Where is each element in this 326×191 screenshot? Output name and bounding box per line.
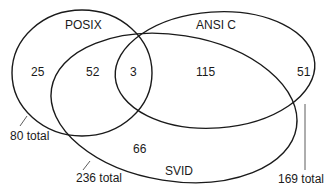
- ansi-c-set-label: ANSI C: [196, 18, 236, 32]
- svid-total-label: 236 total: [76, 171, 122, 185]
- region-ansi-svid-count: 115: [196, 65, 215, 79]
- region-all-three-count: 3: [130, 65, 137, 79]
- region-ansi-only-count: 51: [297, 65, 311, 79]
- region-posix-svid-count: 52: [86, 65, 100, 79]
- svid-set-label: SVID: [165, 164, 193, 178]
- posix-total-label: 80 total: [10, 129, 49, 143]
- venn-diagram: POSIX ANSI C SVID 25 52 3 115 51 66 80 t…: [0, 0, 326, 191]
- ansi-c-total-label: 169 total: [278, 172, 324, 186]
- svid-total-leader: [83, 161, 90, 170]
- region-svid-only-count: 66: [133, 142, 147, 156]
- posix-total-leader: [20, 116, 27, 126]
- region-posix-only-count: 25: [31, 65, 45, 79]
- posix-set-label: POSIX: [65, 18, 102, 32]
